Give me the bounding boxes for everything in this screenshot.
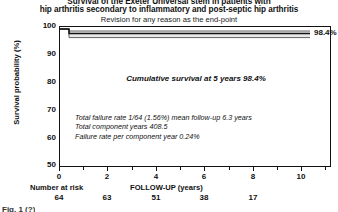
x-tick-mark-7	[229, 167, 230, 170]
number-at-risk-value-4: 51	[144, 193, 168, 202]
figure-title-line-2: hip arthritis secondary to inflammatory …	[0, 4, 338, 15]
number-at-risk-value-0: 64	[47, 193, 71, 202]
x-tick-mark-2	[107, 167, 108, 171]
plot-area: 98.4% Cumulative survival at 5 years 98.…	[59, 26, 331, 167]
number-at-risk-value-8: 17	[241, 193, 265, 202]
x-tick-label-2: 2	[97, 172, 117, 181]
x-tick-label-0: 0	[49, 172, 69, 181]
survival-curve-svg	[60, 27, 332, 168]
x-tick-label-10: 10	[291, 172, 311, 181]
y-tick-label-90: 90	[26, 50, 56, 58]
x-tick-mark-11	[325, 167, 326, 170]
number-at-risk-value-6: 38	[192, 193, 216, 202]
upper-confidence-line	[60, 29, 310, 31]
x-axis-label: FOLLOW-UP (years)	[130, 183, 260, 192]
y-tick-label-80: 80	[26, 78, 56, 86]
x-tick-mark-9	[277, 167, 278, 170]
stat-line-component-years: Total component years 408.5	[75, 122, 252, 131]
y-tick-label-50: 50	[26, 161, 56, 169]
number-at-risk-value-2: 63	[95, 193, 119, 202]
y-axis-label: Survival probability (%)	[12, 18, 21, 148]
x-tick-label-4: 4	[146, 172, 166, 181]
stat-line-failure-rate: Total failure rate 1/64 (1.56%) mean fol…	[75, 113, 252, 122]
x-tick-mark-1	[83, 167, 84, 170]
x-tick-mark-5	[180, 167, 181, 170]
statistics-annotation-block: Total failure rate 1/64 (1.56%) mean fol…	[75, 113, 252, 141]
y-tick-label-70: 70	[26, 106, 56, 114]
x-tick-mark-6	[204, 167, 205, 171]
x-tick-label-8: 8	[243, 172, 263, 181]
x-tick-mark-8	[253, 167, 254, 171]
number-at-risk-label: Number at risk	[30, 183, 83, 192]
x-tick-label-6: 6	[194, 172, 214, 181]
x-tick-mark-3	[132, 167, 133, 170]
y-tick-label-100: 100	[26, 22, 56, 30]
figure-caption: Fig. 1 (?)	[2, 205, 35, 212]
figure-container: Survival of the Exeter Universal stem in…	[0, 0, 338, 212]
x-tick-mark-10	[301, 167, 302, 171]
endpoint-value-label: 98.4%	[314, 28, 337, 37]
y-axis-tick-labels: 100 90 80 70 60 50	[23, 26, 56, 167]
x-tick-mark-0	[59, 167, 60, 171]
x-tick-mark-4	[156, 167, 157, 171]
cumulative-survival-annotation: Cumulative survival at 5 years 98.4%	[60, 74, 332, 83]
stat-line-failure-per-comp-yr: Failure rate per component year 0.24%	[75, 132, 252, 141]
y-tick-label-60: 60	[26, 134, 56, 142]
